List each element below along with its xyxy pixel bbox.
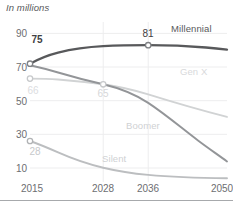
horizontal-gridlines (30, 33, 227, 168)
x-tick-2028: 2028 (92, 183, 114, 194)
series-line-millennial (30, 45, 227, 64)
x-tick-2015: 2015 (21, 183, 43, 194)
value-label-silent-2015: 28 (29, 146, 40, 157)
marker-silent-2015 (27, 138, 32, 143)
y-tick-10: 10 (16, 163, 27, 174)
series-line-silent (30, 141, 227, 178)
value-label-genx-2028: 65 (97, 88, 108, 99)
marker-genx-2028 (101, 82, 106, 87)
bottom-divider (0, 200, 233, 201)
plot-svg (30, 22, 227, 182)
series-label-boomer: Boomer (126, 120, 160, 131)
y-tick-50: 50 (16, 95, 27, 106)
series-label-millennial: Millennial (171, 23, 212, 34)
series-label-genx: Gen X (180, 66, 207, 77)
y-axis: 90 70 50 30 10 (0, 22, 27, 182)
x-tick-2050: 2050 (211, 183, 233, 194)
generations-line-chart: In millions 90 70 50 30 10 (0, 0, 233, 207)
marker-millennial-2036 (146, 43, 151, 48)
marker-genx-2015 (27, 76, 32, 81)
x-tick-2036: 2036 (137, 183, 159, 194)
y-tick-30: 30 (16, 129, 27, 140)
value-label-genx-2015: 66 (27, 85, 38, 96)
y-tick-70: 70 (16, 61, 27, 72)
marker-millennial-2015 (27, 61, 32, 66)
series-label-silent: Silent (102, 153, 126, 164)
x-axis: 2015 2028 2036 2050 (30, 183, 227, 199)
y-tick-90: 90 (16, 28, 27, 39)
chart-title: In millions (6, 2, 49, 13)
plot-area: 75 81 66 65 28 Millennial Gen X Boomer S… (30, 22, 227, 182)
value-label-millennial-2015: 75 (31, 34, 42, 45)
series-line-genx (30, 79, 227, 117)
value-label-millennial-2036: 81 (142, 28, 153, 39)
